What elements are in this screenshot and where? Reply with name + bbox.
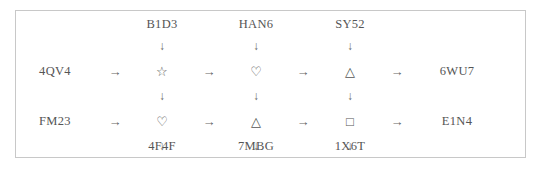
column-output-label-3: 1X6T [324,135,376,157]
column-input-label-2: HAN6 [230,11,282,37]
spacer [94,135,136,157]
arrow-right-icon-r2-3: → [282,105,324,137]
spacer [16,37,94,55]
spacer [16,135,94,157]
spacer [188,11,230,37]
arrow-right-icon-r2-2: → [188,105,230,137]
arrow-down-icon-mid-1: ↓ [136,87,188,105]
spacer [188,135,230,157]
symbol-square-r2c3: □ [324,105,376,137]
arrow-down-icon-mid-2: ↓ [230,87,282,105]
spacer [94,11,136,37]
spacer [418,87,496,105]
spacer [188,87,230,105]
spacer [376,11,418,37]
spacer [376,135,418,157]
spacer [282,37,324,55]
arrow-down-icon-top-2: ↓ [230,37,282,55]
arrow-down-icon-top-1: ↓ [136,37,188,55]
row-output-label-1: 6WU7 [418,55,496,87]
arrow-right-icon-r2-4: → [376,105,418,137]
spacer [94,37,136,55]
spacer [418,11,496,37]
arrow-right-icon-r1-4: → [376,55,418,87]
spacer [376,87,418,105]
row-input-label-1: 4QV4 [16,55,94,87]
arrow-right-icon-r1-3: → [282,55,324,87]
diagram-frame: B1D3 HAN6 SY52 ↓ ↓ ↓ 4QV4 → ☆ → ♡ → △ → … [15,10,526,158]
spacer [418,37,496,55]
spacer [282,135,324,157]
arrow-right-icon-r1-1: → [94,55,136,87]
spacer [282,87,324,105]
spacer [282,11,324,37]
column-output-row: 4F4F 7MBG 1X6T [16,135,527,157]
spacer [94,87,136,105]
symbol-heart-r2c1: ♡ [136,105,188,137]
spacer [418,135,496,157]
row-output-label-2: E1N4 [418,105,496,137]
arrow-down-icon-top-3: ↓ [324,37,376,55]
column-input-label-1: B1D3 [136,11,188,37]
spacer [376,37,418,55]
symbol-triangle-r1c3: △ [324,55,376,87]
arrow-down-icon-mid-3: ↓ [324,87,376,105]
symbol-heart-r1c2: ♡ [230,55,282,87]
column-output-label-2: 7MBG [230,135,282,157]
row-input-label-2: FM23 [16,105,94,137]
arrow-right-icon-r1-2: → [188,55,230,87]
arrow-right-icon-r2-1: → [94,105,136,137]
column-input-label-3: SY52 [324,11,376,37]
column-output-label-1: 4F4F [136,135,188,157]
spacer [16,11,94,37]
symbol-star-r1c1: ☆ [136,55,188,87]
spacer [188,37,230,55]
spacer [16,87,94,105]
symbol-triangle-r2c2: △ [230,105,282,137]
